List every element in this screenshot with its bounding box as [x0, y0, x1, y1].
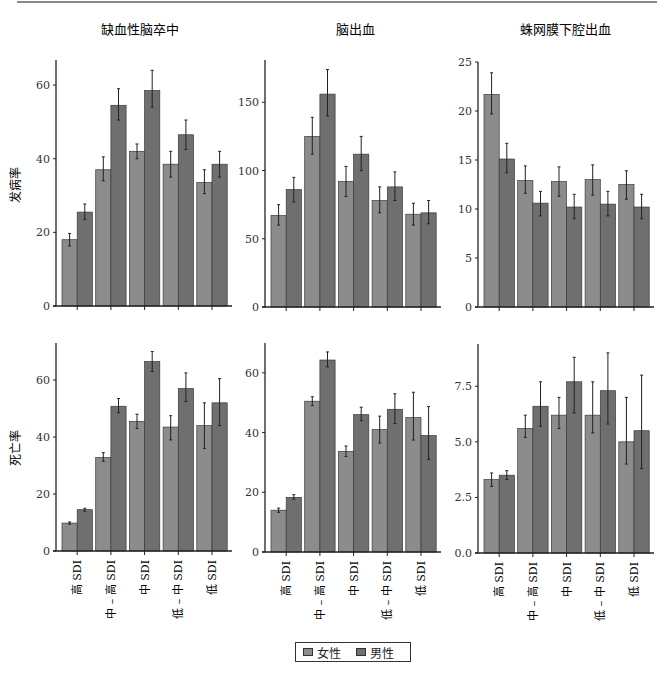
bar-female: [585, 180, 600, 307]
x-tick-label: 中 – 高 SDI: [104, 560, 118, 619]
y-tick-label: 40: [36, 431, 50, 444]
x-tick-label: 低 – 中 SDI: [594, 562, 607, 621]
bar-female: [619, 185, 634, 308]
y-tick-label: 0: [43, 545, 50, 558]
bar-male: [145, 362, 160, 551]
y-tick-label: 10: [458, 203, 472, 216]
x-tick-label: 中 – 高 SDI: [526, 562, 540, 621]
y-tick-label: 100: [238, 165, 259, 178]
bar-female: [338, 181, 353, 307]
bar-male: [387, 409, 402, 552]
y-tick-label: 0: [252, 301, 259, 314]
x-tick-label: 低 – 中 SDI: [381, 561, 394, 620]
panel-title: 脑出血: [336, 22, 375, 37]
bar-female: [96, 458, 111, 551]
y-tick-label: 7.5: [455, 380, 473, 393]
bar-female: [338, 451, 353, 552]
bar-male: [354, 415, 369, 552]
bar-female: [96, 170, 111, 306]
bar-female: [585, 415, 600, 553]
bar-male: [533, 203, 548, 307]
y-tick-label: 0: [465, 301, 472, 314]
bar-male: [600, 204, 615, 307]
bar-male: [421, 213, 436, 307]
bar-male: [145, 91, 160, 306]
y-tick-label: 150: [238, 96, 259, 109]
bar-male: [499, 475, 514, 553]
x-tick-label: 高 SDI: [492, 562, 506, 597]
bar-male: [387, 187, 402, 307]
y-tick-label: 60: [245, 367, 259, 380]
x-tick-label: 中 SDI: [139, 560, 152, 595]
x-tick-label: 中 – 高 SDI: [313, 561, 327, 620]
bar-male: [77, 510, 92, 551]
female-swatch-icon: [303, 648, 313, 656]
y-tick-label: 20: [36, 226, 50, 239]
bar-female: [129, 151, 144, 306]
bar-female: [62, 523, 77, 551]
row-label: 发病率: [8, 167, 23, 203]
panel-title: 缺血性脑卒中: [101, 22, 179, 37]
y-tick-label: 60: [36, 79, 50, 92]
bar-female: [305, 401, 320, 552]
y-tick-label: 20: [245, 486, 259, 499]
bar-female: [406, 214, 421, 307]
bar-male: [178, 389, 193, 551]
bar-male: [320, 94, 335, 307]
x-tick-label: 低 SDI: [415, 561, 428, 596]
y-tick-label: 20: [36, 488, 50, 501]
y-tick-label: 40: [36, 153, 50, 166]
bar-male: [354, 154, 369, 307]
legend-item-male: 男性: [356, 644, 394, 661]
y-tick-label: 0: [252, 546, 259, 559]
y-tick-label: 5.0: [455, 436, 473, 449]
legend-female-label: 女性: [317, 644, 341, 661]
bar-male: [178, 135, 193, 306]
bar-male: [286, 190, 301, 307]
bar-male: [320, 360, 335, 552]
legend-item-female: 女性: [303, 644, 341, 661]
x-tick-label: 高 SDI: [279, 561, 293, 596]
bar-female: [372, 201, 387, 307]
bar-female: [271, 216, 286, 307]
x-tick-label: 中 SDI: [348, 561, 361, 596]
y-tick-label: 60: [36, 374, 50, 387]
bar-female: [551, 182, 566, 307]
bar-male: [111, 406, 126, 551]
y-tick-label: 0.0: [455, 547, 473, 560]
y-tick-label: 25: [458, 56, 472, 69]
bar-female: [518, 428, 533, 553]
y-tick-label: 5: [465, 252, 472, 265]
x-tick-label: 中 SDI: [561, 562, 574, 597]
bar-female: [518, 181, 533, 307]
bar-female: [129, 421, 144, 551]
bar-female: [484, 94, 499, 307]
row-label: 死亡率: [8, 430, 23, 466]
y-tick-label: 0: [43, 300, 50, 313]
chart-panel: 050100150: [238, 60, 441, 314]
y-tick-label: 15: [458, 154, 472, 167]
y-tick-label: 20: [458, 105, 472, 118]
bar-male: [499, 159, 514, 307]
bar-female: [372, 430, 387, 552]
bar-male: [212, 164, 227, 306]
x-tick-label: 高 SDI: [70, 560, 84, 595]
bar-male: [77, 212, 92, 306]
bar-female: [163, 427, 178, 551]
chart-panel: 高 SDI中 – 高 SDI中 SDI低 – 中 SDI低 SDI0.02.55…: [455, 344, 655, 621]
bar-female: [271, 510, 286, 552]
chart-panel: 高 SDI中 – 高 SDI中 SDI低 – 中 SDI低 SDI0204060: [36, 343, 232, 619]
chart-panel: 0510152025: [458, 56, 654, 314]
bar-male: [567, 207, 582, 307]
bar-female: [62, 240, 77, 306]
y-tick-label: 40: [245, 427, 259, 440]
legend-male-label: 男性: [370, 644, 394, 661]
x-tick-label: 低 – 中 SDI: [172, 560, 185, 619]
bar-male: [533, 406, 548, 553]
y-tick-label: 50: [245, 233, 259, 246]
male-swatch-icon: [356, 648, 366, 656]
chart-panel: 高 SDI中 – 高 SDI中 SDI低 – 中 SDI低 SDI0204060: [245, 343, 441, 620]
x-tick-label: 低 SDI: [628, 562, 641, 597]
bar-female: [163, 164, 178, 306]
bar-female: [197, 183, 212, 306]
